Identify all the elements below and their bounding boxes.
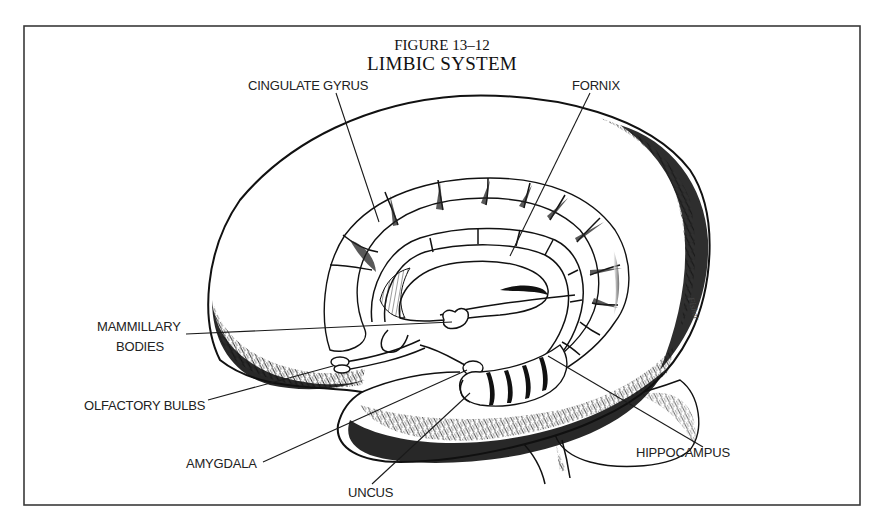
brain-illustration: Fisher bbox=[208, 96, 709, 484]
label-mammillary-bodies-line2: BODIES bbox=[116, 339, 164, 354]
label-fornix: FORNIX bbox=[572, 78, 620, 93]
label-cingulate-gyrus: CINGULATE GYRUS bbox=[248, 78, 369, 93]
figure-title: LIMBIC SYSTEM bbox=[367, 53, 517, 74]
label-hippocampus: HIPPOCAMPUS bbox=[636, 445, 730, 460]
figure-number: FIGURE 13–12 bbox=[394, 37, 489, 53]
label-mammillary-bodies-line1: MAMMILLARY bbox=[97, 319, 181, 334]
label-olfactory-bulbs: OLFACTORY BULBS bbox=[84, 398, 206, 413]
label-amygdala: AMYGDALA bbox=[186, 456, 257, 471]
limbic-system-figure: FIGURE 13–12 LIMBIC SYSTEM bbox=[0, 0, 879, 524]
olfactory-bulb-lower bbox=[334, 365, 350, 373]
label-uncus: UNCUS bbox=[348, 485, 394, 500]
